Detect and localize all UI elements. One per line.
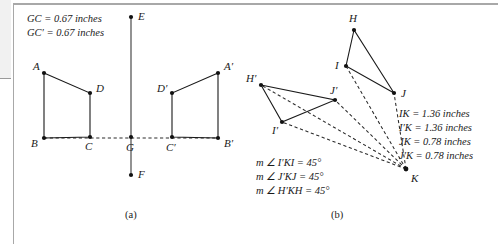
point-b-prime — [216, 136, 220, 140]
label-d-prime: D′ — [156, 82, 168, 94]
measure-jk-prime: J′K = 0.78 inches — [399, 150, 473, 161]
measure-ik-prime: I′K = 1.36 inches — [398, 122, 472, 133]
triangle-hij — [346, 30, 394, 93]
angle-jpkj: m ∠ J′KJ = 45° — [256, 171, 324, 182]
label-a-prime: A′ — [223, 60, 234, 72]
point-c-prime — [170, 135, 174, 139]
caption-a: (a) — [125, 209, 137, 221]
measure-gc: GC = 0.67 inches — [27, 13, 102, 24]
point-b — [42, 136, 46, 140]
label-d: D — [95, 82, 104, 94]
point-f — [129, 173, 133, 177]
point-a-prime — [216, 71, 220, 75]
ray-k-to-j-prime — [335, 100, 406, 169]
measure-ik: IK = 1.36 inches — [398, 108, 470, 119]
label-i: I — [334, 59, 340, 71]
label-b: B — [31, 137, 38, 149]
label-h: H — [348, 12, 358, 24]
label-b-prime: B′ — [224, 137, 234, 149]
panel-b-rotation: H I J H′ I′ J′ K IK = 1.36 inches I′K = … — [245, 12, 473, 221]
ray-k-to-i — [346, 66, 406, 169]
point-i — [344, 64, 348, 68]
label-j: J — [401, 87, 407, 99]
caption-b: (b) — [331, 209, 344, 221]
label-j-prime: J′ — [330, 84, 338, 96]
point-e — [129, 15, 133, 19]
label-a: A — [32, 60, 40, 72]
label-f: F — [137, 168, 145, 180]
label-g: G — [126, 141, 134, 153]
figure-canvas: GC = 0.67 inches GC′ = 0.67 inches E F A… — [0, 0, 498, 244]
point-g — [129, 135, 133, 139]
point-j-prime — [333, 98, 337, 102]
point-d — [88, 91, 92, 95]
label-h-prime: H′ — [245, 72, 257, 84]
point-h — [352, 28, 356, 32]
point-i-prime — [280, 120, 284, 124]
label-k: K — [410, 172, 419, 184]
point-j — [392, 91, 396, 95]
point-k — [404, 167, 409, 172]
label-e: E — [137, 10, 145, 22]
label-i-prime: I′ — [271, 124, 279, 136]
measure-jk: JK = 0.78 inches — [399, 136, 471, 147]
quad-abcd-prime — [172, 73, 218, 138]
quad-abcd — [44, 73, 90, 138]
point-h-prime — [259, 83, 263, 87]
geometry-figure-page: GC = 0.67 inches GC′ = 0.67 inches E F A… — [0, 0, 498, 244]
point-d-prime — [170, 91, 174, 95]
panel-a-reflection: GC = 0.67 inches GC′ = 0.67 inches E F A… — [27, 10, 234, 221]
angle-ipki: m ∠ I′KI = 45° — [256, 157, 322, 168]
measure-gc-prime: GC′ = 0.67 inches — [27, 27, 104, 38]
point-c — [88, 135, 92, 139]
label-c: C — [85, 140, 93, 152]
point-a — [42, 71, 46, 75]
label-c-prime: C′ — [166, 141, 176, 153]
angle-hpkh: m ∠ H′KH = 45° — [256, 185, 330, 196]
triangle-hij-prime — [261, 85, 335, 122]
